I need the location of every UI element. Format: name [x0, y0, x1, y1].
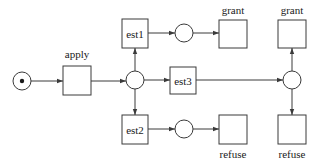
transition-box: [278, 115, 306, 144]
place-p_start: [13, 72, 31, 90]
transition-inner-label: est2: [126, 124, 144, 136]
place-p_top: [175, 24, 193, 42]
transition-label: refuse: [220, 148, 247, 160]
place-p_bottom: [175, 120, 193, 138]
transition-label: grant: [222, 4, 245, 16]
transition-t_est1: est1: [122, 19, 148, 48]
transition-t_apply: apply: [63, 48, 91, 95]
transition-box: [63, 66, 91, 95]
place-circle: [175, 120, 193, 138]
transition-t_grant2: grant: [278, 4, 306, 48]
transition-t_refuse1: refuse: [219, 115, 247, 160]
transition-box: [219, 115, 247, 144]
transition-inner-label: est1: [126, 28, 144, 40]
transition-box: [219, 20, 247, 48]
place-p_right: [283, 71, 301, 89]
place-p_mid: [126, 71, 144, 89]
transition-inner-label: est3: [174, 75, 192, 87]
transition-label: grant: [281, 4, 304, 16]
petri-net-diagram: applyest1est2est3grantrefusegrantrefuse: [0, 0, 320, 166]
transition-t_est3: est3: [170, 67, 196, 94]
transition-label: refuse: [279, 148, 306, 160]
place-circle: [283, 71, 301, 89]
transition-t_refuse2: refuse: [278, 115, 306, 160]
place-circle: [175, 24, 193, 42]
transition-box: [278, 20, 306, 48]
token-dot: [20, 79, 24, 83]
transition-label: apply: [65, 48, 90, 60]
transition-t_grant1: grant: [219, 4, 247, 48]
transition-t_est2: est2: [122, 115, 148, 144]
place-circle: [126, 71, 144, 89]
